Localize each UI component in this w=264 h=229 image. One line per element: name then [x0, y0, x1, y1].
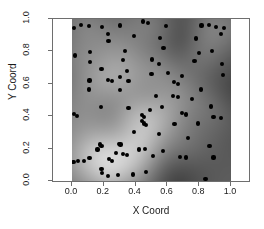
density-raster-image [72, 19, 231, 181]
density-canvas [72, 19, 231, 181]
y-tick-label: 0.2 [22, 135, 31, 159]
x-tick-label: 1.0 [224, 187, 237, 196]
x-tick-label: 0.6 [160, 187, 173, 196]
y-tick-label: 0.0 [22, 168, 31, 192]
y-tick-label: 0.4 [22, 103, 31, 127]
y-tick-label: 0.8 [22, 38, 31, 62]
y-tick-label: 0.6 [22, 70, 31, 94]
x-tick-label: 0.2 [97, 187, 110, 196]
x-tick-label: 0.8 [192, 187, 205, 196]
y-tick-label: 1.0 [22, 6, 31, 30]
x-tick-label: 0.0 [65, 187, 78, 196]
y-axis-title: Y Coord [8, 63, 18, 100]
x-axis-title: X Coord [133, 206, 170, 216]
x-tick-label: 0.4 [128, 187, 141, 196]
scatter-plot-figure: 0.00.20.40.60.81.0 Y Coord 0.00.20.40.60… [0, 0, 264, 229]
plot-frame [52, 18, 250, 182]
